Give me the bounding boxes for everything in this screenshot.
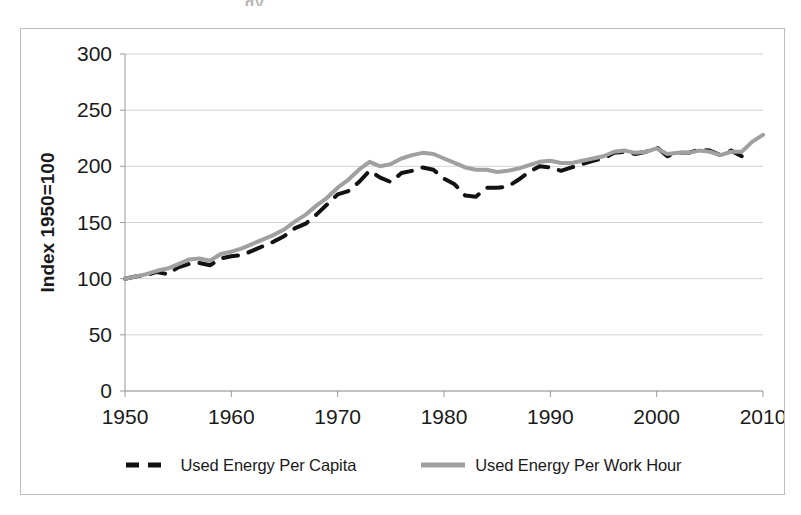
- x-tick-label: 2000: [633, 405, 680, 428]
- y-tick-label: 50: [89, 323, 112, 346]
- gridlines-group: [125, 54, 763, 391]
- chart-legend: Used Energy Per Capita Used Energy Per W…: [21, 443, 786, 487]
- x-tick-label: 1960: [208, 405, 255, 428]
- y-tick-labels: 050100150200250300: [77, 42, 112, 402]
- y-tick-label: 0: [100, 379, 112, 402]
- y-axis-title-text: Index 1950=100: [37, 153, 58, 293]
- y-tick-label: 150: [77, 211, 112, 234]
- legend-item-work-hour: Used Energy Per Work Hour: [420, 456, 681, 475]
- series-line-used-energy-per-capita: [125, 147, 742, 278]
- legend-solid-line-icon: [420, 459, 466, 471]
- y-tick-label: 250: [77, 98, 112, 121]
- line-chart-plot: 050100150200250300 195019601970198019902…: [21, 29, 784, 494]
- x-tick-label: 1990: [527, 405, 574, 428]
- x-tick-labels: 1950196019701980199020002010: [102, 405, 784, 428]
- x-tick-label: 1970: [314, 405, 361, 428]
- legend-label-capita: Used Energy Per Capita: [180, 456, 356, 475]
- y-tick-label: 300: [77, 42, 112, 65]
- y-axis-title: Index 1950=100: [37, 153, 58, 293]
- y-tick-label: 200: [77, 154, 112, 177]
- x-tick-label: 2010: [740, 405, 784, 428]
- x-tick-label: 1980: [421, 405, 468, 428]
- figure-root: gy 050100150200250300 195019601970198019…: [0, 0, 801, 515]
- axes-group: [120, 54, 763, 397]
- scan-top-artifact: gy: [245, 0, 285, 6]
- chart-frame: 050100150200250300 195019601970198019902…: [20, 28, 785, 495]
- x-tick-label: 1950: [102, 405, 149, 428]
- legend-label-work-hour: Used Energy Per Work Hour: [475, 456, 681, 475]
- data-series-group: [125, 135, 763, 279]
- y-tick-label: 100: [77, 267, 112, 290]
- legend-dashed-line-icon: [125, 459, 171, 471]
- legend-item-capita: Used Energy Per Capita: [125, 456, 356, 475]
